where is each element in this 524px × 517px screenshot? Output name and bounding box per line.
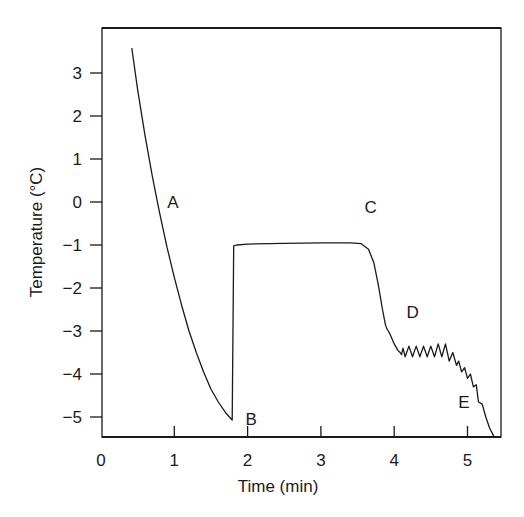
y-tick-label: −5 — [63, 408, 82, 427]
x-tick-label: 2 — [243, 451, 252, 470]
annotation-c: C — [365, 198, 377, 217]
x-axis-ticks: 012345 — [96, 426, 472, 470]
x-tick-label: 0 — [96, 451, 105, 470]
x-axis-label: Time (min) — [238, 477, 319, 496]
annotation-d: D — [406, 303, 418, 322]
x-tick-label: 4 — [389, 451, 398, 470]
y-axis-label: Temperature (°C) — [27, 167, 46, 298]
x-tick-label: 1 — [170, 451, 179, 470]
y-tick-label: 0 — [73, 193, 82, 212]
plot-frame — [102, 28, 501, 437]
data-series — [132, 48, 494, 436]
y-axis-ticks: 3210−1−2−3−4−5 — [63, 64, 102, 427]
temperature-time-chart: 012345 3210−1−2−3−4−5 ABCDE Time (min) T… — [0, 0, 524, 517]
curve-annotations: ABCDE — [167, 193, 469, 429]
y-tick-label: 1 — [73, 150, 82, 169]
x-tick-label: 5 — [463, 451, 472, 470]
y-tick-label: 3 — [73, 64, 82, 83]
y-tick-label: −1 — [63, 236, 82, 255]
y-tick-label: −2 — [63, 279, 82, 298]
x-tick-label: 3 — [316, 451, 325, 470]
y-tick-label: −3 — [63, 322, 82, 341]
annotation-b: B — [246, 410, 257, 429]
annotation-e: E — [458, 393, 469, 412]
y-tick-label: −4 — [63, 365, 82, 384]
annotation-a: A — [167, 193, 179, 212]
y-tick-label: 2 — [73, 107, 82, 126]
temperature-curve — [132, 48, 494, 436]
